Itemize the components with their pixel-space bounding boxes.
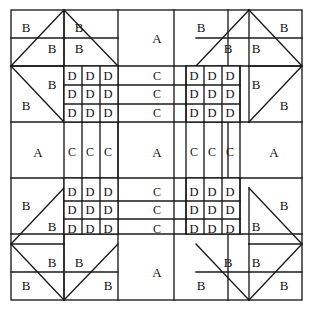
quilt-diagram-canvas: BBBBBBABBBBBBDDDDDDDDDCCCDDDDDDDDDACCCAC… [0, 0, 314, 312]
block-outline-group [11, 10, 302, 300]
d-grid-upper-right [186, 66, 240, 122]
d-grid-upper-left [64, 66, 118, 122]
d-grid-lower-left [64, 178, 118, 234]
d-grid-lower-right [186, 178, 240, 234]
outer-frame [11, 10, 302, 300]
quilt-block-svg [0, 0, 314, 312]
